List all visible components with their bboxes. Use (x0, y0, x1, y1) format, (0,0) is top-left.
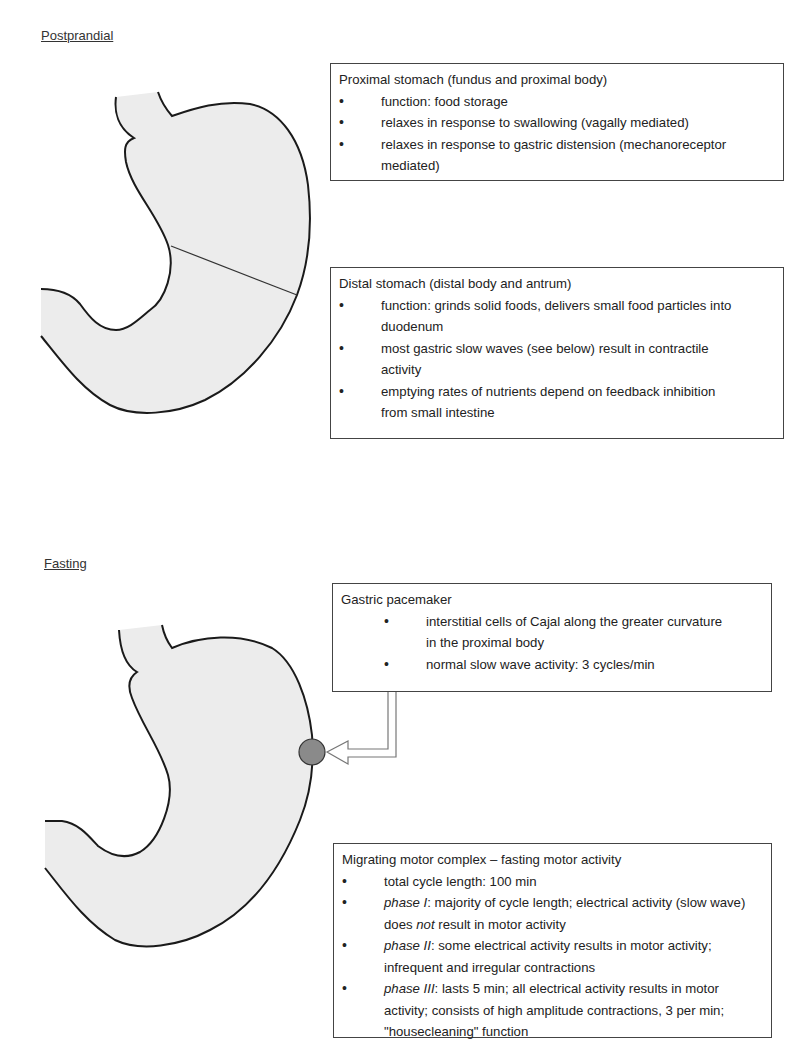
emphasis-text: not (416, 917, 434, 932)
item-text: total cycle length: 100 min (384, 874, 536, 889)
list-item: phase III: lasts 5 min; all electrical a… (342, 978, 763, 1043)
migrating-motor-complex-box: Migrating motor complex – fasting motor … (333, 843, 772, 1038)
list-item: relaxes in response to gastric distensio… (339, 134, 775, 177)
box-title: Gastric pacemaker (341, 589, 731, 611)
section-label-postprandial: Postprandial (41, 28, 113, 43)
gastric-pacemaker-box: Gastric pacemaker interstitial cells of … (332, 583, 772, 692)
list-item: total cycle length: 100 min (342, 871, 763, 893)
box-title: Migrating motor complex – fasting motor … (342, 849, 763, 871)
list-item: phase II: some electrical activity resul… (342, 935, 763, 978)
list-item: emptying rates of nutrients depend on fe… (339, 381, 743, 424)
stomach-fasting-illustration (45, 625, 313, 946)
distal-stomach-box: Distal stomach (distal body and antrum) … (330, 267, 784, 439)
list-item: phase I: majority of cycle length; elect… (342, 892, 763, 935)
list-item: function: grinds solid foods, delivers s… (339, 295, 743, 338)
list-item: normal slow wave activity: 3 cycles/min (341, 654, 731, 676)
pacemaker-location-dot (299, 739, 325, 765)
list-item: relaxes in response to swallowing (vagal… (339, 112, 775, 134)
stomach-postprandial-illustration (41, 92, 310, 413)
proximal-stomach-box: Proximal stomach (fundus and proximal bo… (330, 63, 784, 181)
item-text: result in motor activity (435, 917, 566, 932)
phase-label: phase I (384, 895, 427, 910)
list-item: function: food storage (339, 91, 775, 113)
box-title: Distal stomach (distal body and antrum) (339, 273, 743, 295)
item-text: : some electrical activity results in mo… (384, 938, 712, 975)
section-label-fasting: Fasting (44, 556, 87, 571)
phase-label: phase II (384, 938, 431, 953)
list-item: interstitial cells of Cajal along the gr… (341, 611, 731, 654)
phase-label: phase III (384, 981, 435, 996)
box-title: Proximal stomach (fundus and proximal bo… (339, 69, 775, 91)
list-item: most gastric slow waves (see below) resu… (339, 338, 743, 381)
hollow-arrow-icon (327, 692, 396, 764)
item-text: : lasts 5 min; all electrical activity r… (384, 981, 724, 1039)
